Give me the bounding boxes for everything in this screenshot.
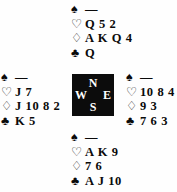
hand-north-hearts-cards: Q 5 2: [82, 17, 116, 32]
club-icon: ♣: [71, 46, 82, 61]
hand-west-spades-row: ♠ —: [1, 70, 60, 85]
hand-north-diamonds-cards: A K Q 4: [82, 31, 133, 46]
hand-east-clubs-row: ♣ 7 6 3: [126, 114, 175, 129]
hand-west-spades-cards: —: [12, 70, 28, 85]
diamond-icon: ♢: [126, 99, 137, 114]
heart-icon: ♡: [1, 85, 12, 100]
compass-east-label: E: [103, 89, 111, 101]
hand-east-spades-row: ♠ —: [126, 70, 175, 85]
hand-east-spades-cards: —: [137, 70, 153, 85]
hand-west-clubs-row: ♣ K 5: [1, 114, 60, 129]
hand-west-hearts-cards: J 7: [12, 85, 32, 100]
hand-north-diamonds-row: ♢ A K Q 4: [71, 31, 133, 46]
diamond-icon: ♢: [71, 31, 82, 46]
hand-north-spades-row: ♠ —: [71, 2, 133, 17]
hand-north-spades-cards: —: [82, 2, 98, 17]
club-icon: ♣: [126, 114, 137, 129]
hand-south-hearts-row: ♡ A K 9: [71, 145, 122, 160]
hand-south-clubs-cards: A J 10: [82, 174, 122, 189]
spade-icon: ♠: [126, 70, 137, 85]
hand-north-hearts-row: ♡ Q 5 2: [71, 17, 133, 32]
club-icon: ♣: [1, 114, 12, 129]
hand-east-hearts-row: ♡ 10 8 4: [126, 85, 175, 100]
compass-west-label: W: [75, 89, 87, 101]
hand-west-diamonds-row: ♢ J 10 8 2: [1, 99, 60, 114]
bridge-deal-diagram: ♠ — ♡ Q 5 2 ♢ A K Q 4 ♣ Q ♠ — ♡ J 7 ♢ J …: [0, 0, 177, 192]
hand-east-diamonds-row: ♢ 9 3: [126, 99, 175, 114]
heart-icon: ♡: [126, 85, 137, 100]
spade-icon: ♠: [1, 70, 12, 85]
spade-icon: ♠: [71, 2, 82, 17]
hand-east-clubs-cards: 7 6 3: [137, 114, 168, 129]
hand-south-spades-cards: —: [82, 130, 98, 145]
hand-south-hearts-cards: A K 9: [82, 145, 119, 160]
hand-north-clubs-cards: Q: [82, 46, 95, 61]
hand-south-diamonds-row: ♢ 7 6: [71, 159, 122, 174]
hand-east-diamonds-cards: 9 3: [137, 99, 157, 114]
hand-east-hearts-cards: 10 8 4: [137, 85, 175, 100]
spade-icon: ♠: [71, 130, 82, 145]
hand-south: ♠ — ♡ A K 9 ♢ 7 6 ♣ A J 10: [71, 130, 122, 188]
hand-west-hearts-row: ♡ J 7: [1, 85, 60, 100]
diamond-icon: ♢: [1, 99, 12, 114]
compass-box: N W E S: [72, 74, 114, 116]
hand-south-diamonds-cards: 7 6: [82, 159, 102, 174]
compass-north-label: N: [89, 77, 98, 89]
diamond-icon: ♢: [71, 159, 82, 174]
hand-south-spades-row: ♠ —: [71, 130, 122, 145]
hand-west-diamonds-cards: J 10 8 2: [12, 99, 60, 114]
hand-north: ♠ — ♡ Q 5 2 ♢ A K Q 4 ♣ Q: [71, 2, 133, 60]
heart-icon: ♡: [71, 17, 82, 32]
heart-icon: ♡: [71, 145, 82, 160]
hand-east: ♠ — ♡ 10 8 4 ♢ 9 3 ♣ 7 6 3: [126, 70, 175, 128]
hand-west-clubs-cards: K 5: [12, 114, 36, 129]
hand-south-clubs-row: ♣ A J 10: [71, 174, 122, 189]
hand-north-clubs-row: ♣ Q: [71, 46, 133, 61]
hand-west: ♠ — ♡ J 7 ♢ J 10 8 2 ♣ K 5: [1, 70, 60, 128]
compass-south-label: S: [90, 101, 97, 113]
club-icon: ♣: [71, 174, 82, 189]
